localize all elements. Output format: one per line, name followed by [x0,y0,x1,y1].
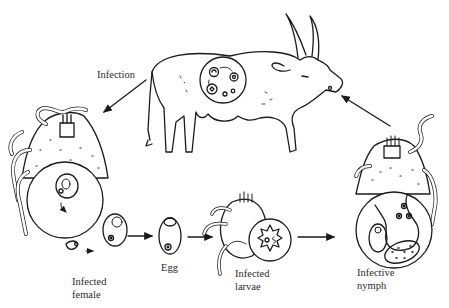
infection-arrow [104,80,146,112]
diagram-drawing [0,0,449,308]
life-cycle-diagram: Infection Infected female Egg Infected l… [0,0,449,308]
infected-larvae-tick [204,192,291,274]
label-infected-larvae-line2: larvae [235,281,261,293]
egg [159,218,181,254]
label-infection: Infection [97,69,135,81]
label-infected-larvae-line1: Infected [235,268,269,280]
label-infective-nymph-line2: nymph [357,280,386,292]
bull-illustration [146,14,343,152]
label-infected-female-line1: Infected [72,276,106,288]
label-infective-nymph-line1: Infective [357,267,394,279]
label-infected-female-line2: female [72,289,101,301]
label-egg: Egg [161,262,178,274]
infective-nymph-tick [356,116,436,268]
transmission-arrow [342,96,390,126]
infected-female-tick [10,108,127,251]
